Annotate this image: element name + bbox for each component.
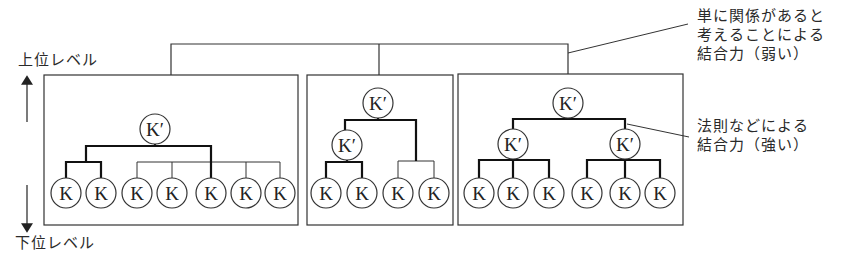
node-label: K (319, 183, 333, 204)
parent-node: K′ (498, 129, 528, 159)
leaf-node: K (464, 178, 494, 208)
node-label: K′ (559, 93, 577, 114)
lower-level-label: 下位レベル (15, 234, 95, 253)
leaf-node: K (51, 178, 81, 208)
leaf-node: K (86, 178, 116, 208)
tree-nodes: K′KKKKKKKK′K′KKKKK′K′K′KKKKKK (51, 88, 675, 208)
strong-edge (66, 162, 86, 178)
leaf-node: K (265, 178, 295, 208)
strong-edge (86, 144, 155, 162)
node-label: K (542, 183, 556, 204)
node-label: K (472, 183, 486, 204)
node-label: K (618, 183, 632, 204)
upper-level-label: 上位レベル (18, 51, 98, 70)
node-label: K (165, 183, 179, 204)
strong-edge (513, 160, 549, 178)
node-label: K (580, 183, 594, 204)
strong-edge (587, 159, 625, 178)
leaf-node: K (157, 178, 187, 208)
leaf-node: K (572, 178, 602, 208)
leaf-node: K (383, 178, 413, 208)
leaf-node: K (347, 178, 377, 208)
parent-node: K′ (332, 130, 362, 160)
strong-edge (345, 118, 378, 130)
leaf-node: K (311, 178, 341, 208)
node-label: K (355, 183, 369, 204)
bracket-line (171, 44, 568, 75)
hierarchy-diagram: K′KKKKKKKK′K′KKKKK′K′K′KKKKKK 上位レベル 下位レベ… (0, 0, 863, 262)
leaf-node: K (645, 178, 675, 208)
parent-node: K′ (553, 88, 583, 118)
node-label: K′ (146, 119, 164, 140)
leaf-node: K (419, 178, 449, 208)
node-label: K′ (338, 135, 356, 156)
strong-edge (86, 162, 101, 178)
parent-node: K′ (610, 129, 640, 159)
node-label: K (273, 183, 287, 204)
node-label: K (391, 183, 405, 204)
strong-edge (513, 118, 568, 129)
strong-binding-label: 法則などによる 結合力（強い） (697, 117, 809, 155)
strong-edge (326, 160, 347, 178)
node-label: K′ (504, 134, 522, 155)
leaf-node: K (122, 178, 152, 208)
strong-edge (378, 120, 416, 161)
strong-edge (568, 119, 625, 129)
weak-binding-bracket (171, 44, 568, 75)
parent-node: K′ (140, 114, 170, 144)
node-label: K (506, 183, 520, 204)
strong-edge (347, 162, 362, 178)
leaf-node: K (610, 178, 640, 208)
parent-node: K′ (363, 88, 393, 118)
node-label: K (239, 183, 253, 204)
leaf-node: K (231, 178, 261, 208)
node-label: K (653, 183, 667, 204)
strong-edge (625, 160, 660, 178)
leaf-node: K (196, 178, 226, 208)
node-label: K′ (616, 134, 634, 155)
node-label: K (427, 183, 441, 204)
leaf-node: K (498, 178, 528, 208)
node-label: K (130, 183, 144, 204)
node-label: K (59, 183, 73, 204)
strong-edge (479, 159, 513, 178)
leaf-node: K (534, 178, 564, 208)
node-label: K (94, 183, 108, 204)
weak-binding-label: 単に関係があると 考えることによる 結合力（弱い） (697, 7, 825, 64)
node-label: K (204, 183, 218, 204)
leader-line-weak (568, 24, 688, 53)
node-label: K′ (369, 93, 387, 114)
